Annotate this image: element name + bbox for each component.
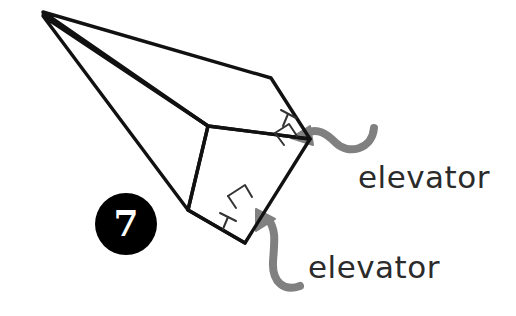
arrow-lower [256, 209, 300, 288]
paper-airplane-diagram: 7 elevator elevator [0, 0, 516, 316]
label-elevator-lower: elevator [308, 250, 440, 284]
airplane-body [43, 12, 310, 243]
upper-wing-panel [43, 12, 310, 139]
tail-trailing-edge [188, 210, 245, 243]
lower-wing-panel [188, 126, 310, 243]
fuselage-ridge-crease [43, 14, 208, 126]
label-elevator-upper: elevator [358, 160, 490, 194]
lower-tab-bracket-mark-icon [228, 185, 252, 208]
step-number-badge: 7 [95, 193, 157, 255]
step-number-text: 7 [113, 205, 138, 243]
lower-tab-t-mark-icon [220, 213, 236, 229]
fuselage-side-panel [43, 16, 208, 210]
